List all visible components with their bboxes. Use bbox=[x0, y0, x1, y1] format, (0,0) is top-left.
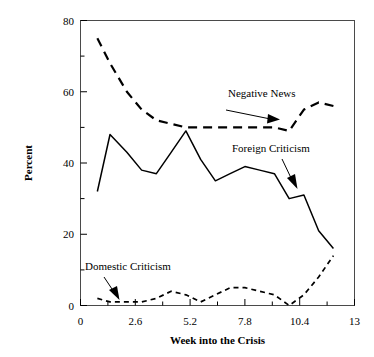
x-tick-label: 10.4 bbox=[290, 315, 310, 327]
x-axis-title: Week into the Crisis bbox=[170, 334, 266, 346]
annotation-label-domestic-criticism: Domestic Criticism bbox=[85, 260, 171, 272]
line-chart-canvas: 0 20 40 60 80 0 2.6 5.2 7.8 10.4 13 Week… bbox=[0, 0, 374, 357]
x-tick-label: 0 bbox=[78, 315, 84, 327]
annotation-label-negative-news: Negative News bbox=[228, 87, 296, 99]
x-tick-label: 13 bbox=[349, 315, 361, 327]
x-tick-label: 2.6 bbox=[128, 315, 142, 327]
x-tick-label: 7.8 bbox=[238, 315, 252, 327]
annotation-label-foreign-criticism: Foreign Criticism bbox=[232, 142, 310, 154]
y-axis-title: Percent bbox=[22, 145, 34, 181]
y-tick-label: 0 bbox=[69, 300, 75, 312]
y-tick-label: 40 bbox=[63, 157, 75, 169]
y-tick-label: 60 bbox=[63, 86, 75, 98]
y-tick-label: 20 bbox=[63, 228, 75, 240]
y-tick-label: 80 bbox=[63, 15, 75, 27]
y-axis-tick-labels: 0 20 40 60 80 bbox=[63, 15, 75, 312]
chart-figure: 0 20 40 60 80 0 2.6 5.2 7.8 10.4 13 Week… bbox=[0, 0, 374, 357]
x-tick-label: 5.2 bbox=[183, 315, 197, 327]
x-axis-tick-labels: 0 2.6 5.2 7.8 10.4 13 bbox=[78, 315, 361, 327]
